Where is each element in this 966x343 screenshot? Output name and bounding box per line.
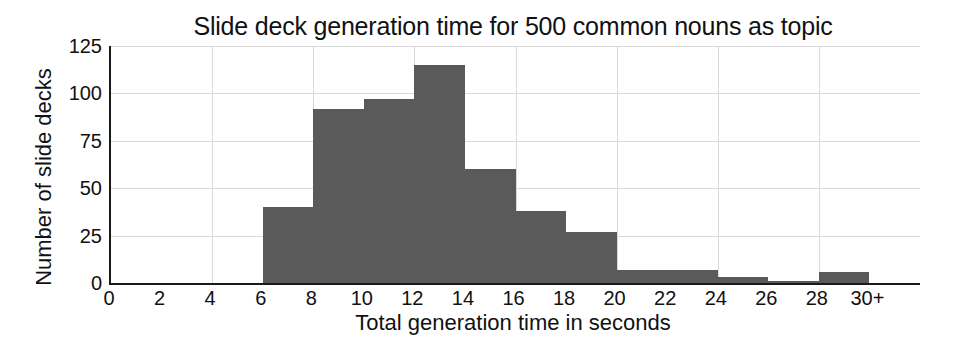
histogram-bar — [313, 109, 364, 283]
x-axis-tick-labels: 024681012141618202224262830+ — [109, 288, 918, 314]
histogram-bar — [667, 270, 718, 283]
histogram-bar — [414, 65, 465, 283]
y-tick-label: 50 — [42, 178, 102, 198]
y-tick-label: 100 — [42, 83, 102, 103]
histogram-bar — [263, 207, 314, 283]
histogram-bar — [516, 211, 567, 283]
bars-layer — [111, 46, 920, 283]
chart-title: Slide deck generation time for 500 commo… — [108, 12, 918, 41]
y-tick-label: 125 — [42, 36, 102, 56]
y-axis-tick-labels: 0255075100125 — [36, 46, 102, 283]
histogram-bar — [617, 270, 668, 283]
x-tick-label: 30+ — [832, 288, 902, 308]
histogram-bar — [566, 232, 617, 283]
y-tick-label: 25 — [42, 226, 102, 246]
y-tick-label: 75 — [42, 131, 102, 151]
plot-area — [109, 46, 920, 285]
histogram-figure: Slide deck generation time for 500 commo… — [0, 0, 966, 343]
histogram-bar — [718, 277, 769, 283]
histogram-bar — [768, 281, 819, 283]
histogram-bar — [364, 99, 415, 283]
histogram-bar — [819, 272, 870, 283]
histogram-bar — [465, 169, 516, 283]
